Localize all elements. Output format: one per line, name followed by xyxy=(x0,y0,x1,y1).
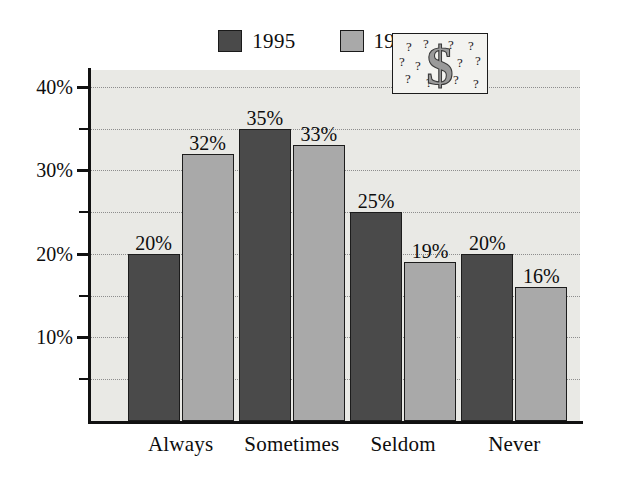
y-tick-mark-25 xyxy=(79,211,90,213)
bar-sometimes-1996: 33% xyxy=(293,145,345,421)
bar-value-label-always-1995: 20% xyxy=(135,233,172,253)
y-tick-mark-5 xyxy=(79,378,90,380)
plot-area: 10%20%30%40% 20%32%35%33%25%19%20%16% xyxy=(91,70,580,421)
bar-never-1995: 20% xyxy=(461,254,513,421)
y-tick-mark-20 xyxy=(77,253,90,256)
legend-item-1995: 1995 xyxy=(218,30,295,52)
x-axis-label-always: Always xyxy=(148,432,213,457)
bar-group-seldom: 25%19% xyxy=(348,70,459,421)
bar-always-1996: 32% xyxy=(182,154,234,421)
legend-label-1995: 1995 xyxy=(252,31,295,52)
x-axis-label-never: Never xyxy=(488,432,540,457)
bar-value-label-sometimes-1996: 33% xyxy=(301,124,338,144)
dollar-sign-icon: ? ? ? ? ? ? ? ? ? ? ? ? $ xyxy=(392,33,488,94)
y-tick-mark-35 xyxy=(79,128,90,130)
chart-legend: 1995 1996 xyxy=(0,24,635,58)
bar-value-label-seldom-1996: 19% xyxy=(412,241,449,261)
x-axis-labels: AlwaysSometimesSeldomNever xyxy=(91,432,580,466)
bar-always-1995: 20% xyxy=(128,254,180,421)
bar-chart: 1995 1996 10%20%30%40% 20%32%35%33%25%19… xyxy=(0,0,635,479)
dollar-sign-question-marks-graphic: ? ? ? ? ? ? ? ? ? ? ? ? $ xyxy=(393,34,487,93)
bar-groups: 20%32%35%33%25%19%20%16% xyxy=(91,70,580,421)
y-tick-label-20: 20% xyxy=(36,242,73,265)
y-tick-label-40: 40% xyxy=(36,75,73,98)
y-tick-mark-30 xyxy=(77,169,90,172)
bar-value-label-never-1996: 16% xyxy=(523,266,560,286)
y-tick-mark-15 xyxy=(79,295,90,297)
legend-swatch-1996 xyxy=(340,30,364,52)
bar-value-label-never-1995: 20% xyxy=(469,233,506,253)
bar-group-never: 20%16% xyxy=(459,70,570,421)
bar-value-label-seldom-1995: 25% xyxy=(358,191,395,211)
y-tick-label-10: 10% xyxy=(36,326,73,349)
x-axis-label-sometimes: Sometimes xyxy=(244,432,339,457)
x-axis-label-seldom: Seldom xyxy=(370,432,435,457)
bar-never-1996: 16% xyxy=(515,287,567,421)
bar-sometimes-1995: 35% xyxy=(239,129,291,422)
bar-seldom-1996: 19% xyxy=(404,262,456,421)
x-axis-line xyxy=(88,421,583,424)
bar-seldom-1995: 25% xyxy=(350,212,402,421)
bar-group-always: 20%32% xyxy=(125,70,236,421)
bar-value-label-sometimes-1995: 35% xyxy=(247,108,284,128)
y-tick-mark-40 xyxy=(77,86,90,89)
svg-text:$: $ xyxy=(427,36,454,93)
y-tick-mark-10 xyxy=(77,336,90,339)
bar-value-label-always-1996: 32% xyxy=(189,133,226,153)
bar-group-sometimes: 35%33% xyxy=(236,70,347,421)
y-tick-label-30: 30% xyxy=(36,159,73,182)
legend-swatch-1995 xyxy=(218,30,242,52)
